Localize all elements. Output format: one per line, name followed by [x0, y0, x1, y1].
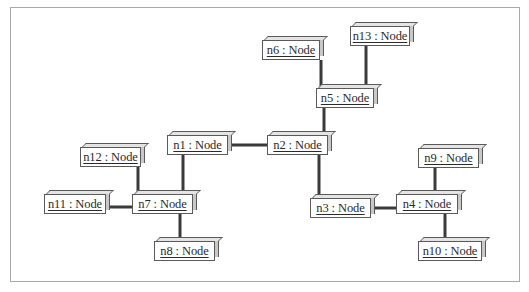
node-n7[interactable]: n7 : Node — [132, 194, 193, 214]
node-label: n7 : Node — [138, 197, 186, 212]
node-label: n1 : Node — [173, 138, 221, 153]
node-front-face: n11 : Node — [44, 194, 106, 214]
node-front-face: n4 : Node — [396, 194, 458, 214]
node-front-face: n13 : Node — [350, 26, 410, 46]
node-n3[interactable]: n3 : Node — [310, 198, 371, 218]
node-label: n12 : Node — [83, 150, 138, 165]
node-n5[interactable]: n5 : Node — [316, 88, 374, 108]
node-front-face: n1 : Node — [167, 135, 228, 155]
node-n12[interactable]: n12 : Node — [80, 147, 141, 167]
node-label: n11 : Node — [48, 197, 102, 212]
node-label: n5 : Node — [321, 91, 369, 106]
node-label: n10 : Node — [423, 244, 478, 259]
node-front-face: n2 : Node — [267, 135, 328, 155]
node-front-face: n3 : Node — [310, 198, 371, 218]
node-label: n3 : Node — [316, 201, 364, 216]
node-front-face: n5 : Node — [316, 88, 374, 108]
node-n13[interactable]: n13 : Node — [350, 26, 410, 46]
node-label: n8 : Node — [160, 244, 208, 259]
node-front-face: n9 : Node — [418, 148, 479, 168]
node-n9[interactable]: n9 : Node — [418, 148, 479, 168]
node-front-face: n6 : Node — [262, 40, 320, 60]
node-n11[interactable]: n11 : Node — [44, 194, 106, 214]
node-front-face: n8 : Node — [154, 241, 215, 261]
node-label: n9 : Node — [424, 151, 472, 166]
node-label: n13 : Node — [353, 29, 408, 44]
node-label: n2 : Node — [273, 138, 321, 153]
node-front-face: n10 : Node — [418, 241, 482, 261]
node-n4[interactable]: n4 : Node — [396, 194, 458, 214]
node-front-face: n7 : Node — [132, 194, 193, 214]
node-n10[interactable]: n10 : Node — [418, 241, 482, 261]
node-n6[interactable]: n6 : Node — [262, 40, 320, 60]
node-front-face: n12 : Node — [80, 147, 141, 167]
node-label: n6 : Node — [267, 43, 315, 58]
node-n1[interactable]: n1 : Node — [167, 135, 228, 155]
node-n8[interactable]: n8 : Node — [154, 241, 215, 261]
node-label: n4 : Node — [403, 197, 451, 212]
node-n2[interactable]: n2 : Node — [267, 135, 328, 155]
